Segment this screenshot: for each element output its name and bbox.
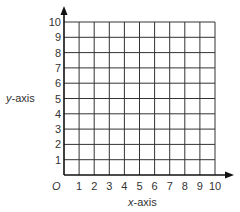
x-tick-label: 7 [167, 180, 173, 192]
x-tick-label: 2 [91, 180, 97, 192]
y-tick-label: 9 [55, 31, 61, 43]
x-tick-label: 8 [182, 180, 188, 192]
y-tick-labels: 12345678910 [49, 16, 61, 166]
y-tick-label: 7 [55, 62, 61, 74]
x-tick-labels: 12345678910 [76, 180, 221, 192]
x-tick-label: 3 [106, 180, 112, 192]
x-axis-label: x-axis [127, 196, 157, 208]
x-tick-label: 4 [121, 180, 127, 192]
coordinate-grid: 12345678910 12345678910 O x-axis y-axis [0, 0, 240, 212]
y-tick-label: 2 [55, 138, 61, 150]
y-axis-label: y-axis [5, 92, 35, 104]
y-tick-label: 10 [49, 16, 61, 28]
x-tick-label: 6 [152, 180, 158, 192]
x-tick-label: 5 [136, 180, 142, 192]
origin-label: O [52, 180, 61, 192]
y-tick-label: 3 [55, 123, 61, 135]
x-tick-label: 10 [209, 180, 221, 192]
axes [61, 6, 235, 179]
y-tick-label: 4 [55, 108, 61, 120]
x-axis-arrow-icon [225, 172, 234, 179]
y-tick-label: 5 [55, 93, 61, 105]
y-tick-label: 1 [55, 154, 61, 166]
x-tick-label: 1 [76, 180, 82, 192]
y-tick-label: 6 [55, 77, 61, 89]
y-axis-arrow-icon [61, 6, 68, 15]
y-tick-label: 8 [55, 47, 61, 59]
x-tick-label: 9 [197, 180, 203, 192]
grid-lines [64, 22, 215, 175]
